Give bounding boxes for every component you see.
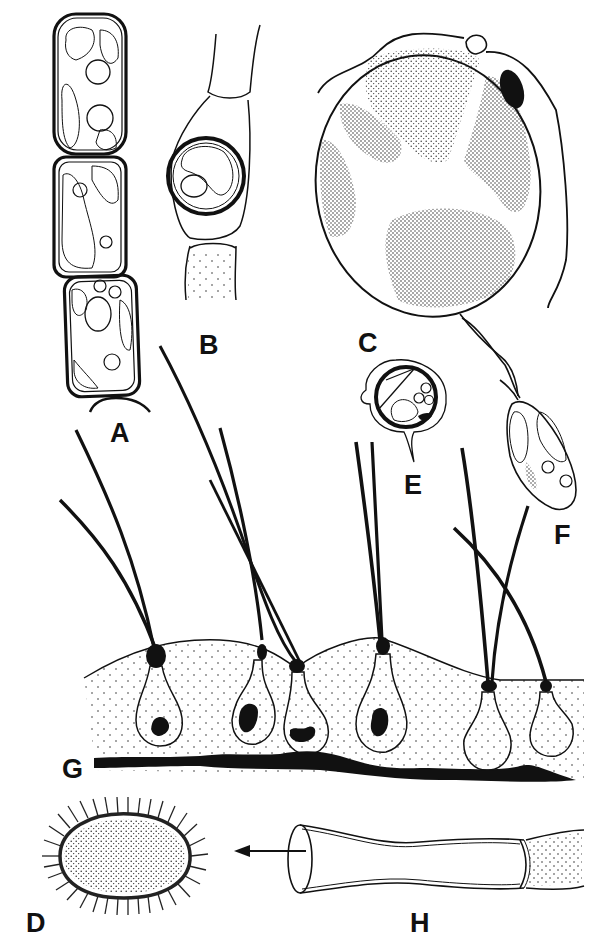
label-g: G [62, 754, 83, 784]
label-c: C [358, 328, 378, 358]
label-b: B [199, 330, 219, 360]
label-f: F [554, 520, 571, 550]
panel-f-swarmer [460, 314, 576, 509]
label-a: A [110, 418, 130, 448]
label-h: H [410, 908, 430, 938]
panel-c-flagellate [299, 34, 567, 398]
panel-b-filament [168, 25, 260, 300]
arrow-icon [234, 845, 250, 857]
panel-g-hair-cells [60, 346, 584, 782]
label-d: D [26, 908, 46, 938]
panel-a-filament [54, 14, 150, 412]
label-e: E [404, 470, 422, 500]
illustration-plate: A B C E [0, 0, 612, 938]
panel-d-spore [42, 797, 208, 915]
panel-h-empty-cell [234, 825, 584, 893]
